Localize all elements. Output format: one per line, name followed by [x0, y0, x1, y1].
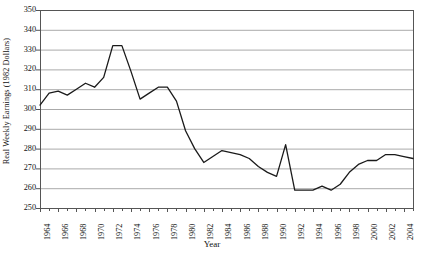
y-tick-label: 350	[12, 6, 36, 14]
y-tick-label: 250	[12, 204, 36, 212]
x-tick-label: 1986	[244, 224, 252, 240]
x-tick-label: 1998	[353, 224, 361, 240]
x-tick-label: 1988	[262, 224, 270, 240]
x-tick-label: 1978	[171, 224, 179, 240]
x-tick-label: 1976	[153, 224, 161, 240]
x-tick-label: 1994	[316, 224, 324, 240]
y-tick-label: 280	[12, 145, 36, 153]
x-tick-label: 1996	[335, 224, 343, 240]
x-tick-label: 1990	[280, 224, 288, 240]
y-tick-label: 290	[12, 125, 36, 133]
y-tick-label: 260	[12, 184, 36, 192]
x-tick-label: 1982	[207, 224, 215, 240]
y-tick-label: 310	[12, 85, 36, 93]
x-tick-label: 2000	[371, 224, 379, 240]
y-tick-label: 330	[12, 46, 36, 54]
x-tick-label: 1970	[98, 224, 106, 240]
y-tick-label: 300	[12, 105, 36, 113]
x-tick-label: 1964	[44, 224, 52, 240]
x-axis-title: Year	[0, 239, 424, 249]
x-tick-label: 1980	[189, 224, 197, 240]
y-tick-label: 270	[12, 164, 36, 172]
x-tick-label: 2004	[407, 224, 415, 240]
x-tick-label: 1966	[62, 224, 70, 240]
x-tick-label: 2002	[389, 224, 397, 240]
y-axis-ticks: 250260270280290300310320330340350	[0, 0, 424, 256]
x-tick-label: 1968	[80, 224, 88, 240]
chart-container: Real Weekly Earnings (1982 Dollars) 2502…	[0, 0, 424, 256]
x-tick-label: 1992	[298, 224, 306, 240]
y-tick-label: 340	[12, 26, 36, 34]
x-tick-label: 1972	[116, 224, 124, 240]
y-tick-label: 320	[12, 65, 36, 73]
x-tick-label: 1974	[134, 224, 142, 240]
x-tick-label: 1984	[225, 224, 233, 240]
